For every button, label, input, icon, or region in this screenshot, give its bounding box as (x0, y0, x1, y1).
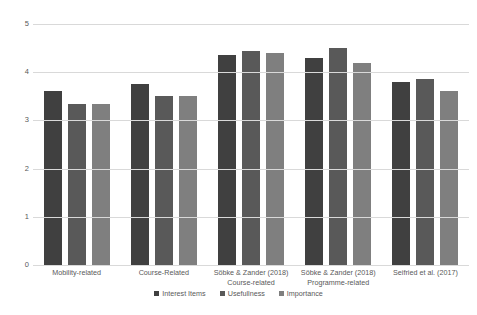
bar-chart: 012345 Mobility-relatedCourse-RelatedSöb… (0, 0, 477, 315)
x-axis-label-line1: Mobility-related (52, 268, 101, 277)
bar (416, 79, 434, 265)
y-tick-label: 5 (5, 20, 29, 28)
legend-swatch-icon (220, 291, 225, 296)
bar (266, 53, 284, 265)
bar-group (382, 24, 469, 265)
gridline-5 (33, 24, 469, 25)
gridline-2 (33, 169, 469, 170)
bar (392, 82, 410, 265)
bar (305, 58, 323, 265)
bar (44, 91, 62, 265)
y-tick-label: 2 (5, 165, 29, 173)
legend-swatch-icon (154, 291, 159, 296)
bar-group (207, 24, 294, 265)
bar (353, 63, 371, 265)
y-tick-label: 3 (5, 117, 29, 125)
x-axis-label-line2: Programme-related (297, 278, 380, 288)
gridline-1 (33, 217, 469, 218)
bar (131, 84, 149, 265)
x-axis-label-line1: Söbke & Zander (2018) (301, 268, 376, 277)
bar (155, 96, 173, 265)
bar-group (295, 24, 382, 265)
legend-item[interactable]: Importance (279, 290, 323, 297)
legend-item[interactable]: Interest Items (154, 290, 206, 297)
chart-legend: Interest ItemsUsefullnessImportance (0, 290, 477, 297)
gridline-4 (33, 72, 469, 73)
legend-swatch-icon (279, 291, 284, 296)
bar (440, 91, 458, 265)
bar-group (120, 24, 207, 265)
x-axis-label-line1: Seifried et al. (2017) (393, 268, 458, 277)
y-tick-label: 1 (5, 213, 29, 221)
gridline-0 (33, 265, 469, 266)
legend-item-label: Importance (287, 290, 323, 297)
bar-groups (33, 24, 469, 265)
legend-item[interactable]: Usefullness (220, 290, 265, 297)
bar (179, 96, 197, 265)
y-axis: 012345 (0, 24, 29, 265)
bar (218, 55, 236, 265)
y-tick-label: 0 (5, 261, 29, 269)
gridline-3 (33, 120, 469, 121)
bar (68, 104, 86, 265)
y-tick-label: 4 (5, 68, 29, 76)
x-axis-label-line1: Course-Related (139, 268, 189, 277)
bar (242, 51, 260, 265)
bar-group (33, 24, 120, 265)
plot-area (33, 24, 469, 265)
x-axis-label-line2: Course-related (209, 278, 292, 288)
x-axis-label-line1: Söbke & Zander (2018) (214, 268, 289, 277)
legend-item-label: Usefullness (228, 290, 265, 297)
bar (92, 104, 110, 265)
legend-item-label: Interest Items (162, 290, 206, 297)
bar (329, 48, 347, 265)
